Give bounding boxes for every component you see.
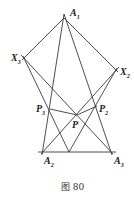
segment-a1-a3 bbox=[64, 14, 112, 155]
label-x2: X2 bbox=[119, 66, 130, 79]
label-a3: A3 bbox=[113, 155, 124, 168]
segment-a1-x2 bbox=[64, 18, 118, 72]
segment-x2-m bbox=[69, 68, 117, 152]
segment-p3-p bbox=[50, 109, 77, 115]
label-x3: X3 bbox=[10, 52, 21, 65]
segment-x3-m bbox=[23, 56, 69, 152]
figure-caption: 图 80 bbox=[61, 182, 85, 192]
label-a1: A1 bbox=[69, 7, 80, 20]
geometry-figure: A1 X3 X2 P3 P2 P A2 A3 图 80 bbox=[0, 0, 134, 198]
label-a2: A2 bbox=[43, 155, 54, 168]
label-p2: P2 bbox=[99, 103, 108, 116]
label-p3: P3 bbox=[36, 103, 45, 116]
figure-lines bbox=[21, 14, 119, 155]
label-p: P bbox=[72, 119, 79, 130]
